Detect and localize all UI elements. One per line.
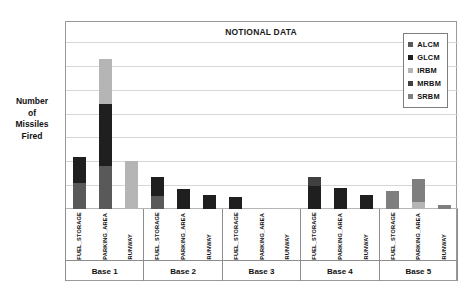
bar-slot[interactable] [99, 42, 112, 209]
bar-slot[interactable] [282, 42, 295, 209]
axis-group-cell: FUEL_STORAGEPARKING_AREARUNWAYBase 2 [143, 209, 222, 281]
y-axis-title-line-2: of [2, 108, 62, 120]
bar-segment[interactable] [99, 166, 112, 209]
bar-segment[interactable] [308, 186, 321, 209]
bar-stack[interactable] [203, 195, 216, 209]
chart-title: NOTIONAL DATA [66, 27, 456, 37]
bar-segment[interactable] [125, 161, 138, 209]
bar-segment[interactable] [412, 179, 425, 202]
bar-segment[interactable] [203, 195, 216, 209]
bar-stack[interactable] [99, 59, 112, 209]
axis-subcategory-row: FUEL_STORAGEPARKING_AREARUNWAY [301, 209, 378, 260]
bar-stack[interactable] [334, 188, 347, 209]
bar-segment[interactable] [73, 157, 86, 183]
bar-segment[interactable] [334, 188, 347, 209]
bar-group [144, 42, 222, 209]
bar-segment[interactable] [99, 59, 112, 104]
bar-slot[interactable] [229, 42, 242, 209]
bar-slot[interactable] [125, 42, 138, 209]
bar-stack[interactable] [73, 157, 86, 209]
axis-subcategory-label: FUEL_STORAGE [229, 210, 242, 260]
axis-group-cell: FUEL_STORAGEPARKING_AREARUNWAYBase 3 [222, 209, 301, 281]
legend-item[interactable]: MRBM [408, 77, 441, 90]
axis-subcategory-label: PARKING_AREA [255, 210, 268, 260]
bar-slot[interactable] [360, 42, 373, 209]
bar-group [301, 42, 379, 209]
bar-segment[interactable] [99, 104, 112, 166]
bar-slot[interactable] [177, 42, 190, 209]
bar-segment[interactable] [177, 189, 190, 209]
y-axis-title-line-3: Missiles [2, 119, 62, 131]
axis-group-label: Base 4 [301, 260, 378, 281]
axis-subcategory-label: PARKING_AREA [412, 210, 425, 260]
axis-group-label: Base 1 [66, 260, 143, 281]
axis-group-label: Base 2 [144, 260, 221, 281]
axis-group-cell: FUEL_STORAGEPARKING_AREARUNWAYBase 1 [65, 209, 144, 281]
chart-legend: ALCMGLCMIRBMMRBMSRBM [403, 33, 448, 108]
bar-segment[interactable] [151, 177, 164, 196]
axis-subcategory-row: FUEL_STORAGEPARKING_AREARUNWAY [380, 209, 457, 260]
bar-segment[interactable] [412, 202, 425, 209]
chart-container: NOTIONAL DATA FUEL_STORAGEPARKING_AREARU… [65, 21, 457, 281]
bar-segment[interactable] [229, 197, 242, 209]
bar-stack[interactable] [386, 191, 399, 209]
legend-swatch-icon [408, 81, 413, 86]
y-axis-title: Number of Missiles Fired [2, 96, 62, 142]
bar-slot[interactable] [308, 42, 321, 209]
axis-group-label: Base 5 [380, 260, 457, 281]
legend-item[interactable]: IRBM [408, 64, 441, 77]
legend-item[interactable]: SRBM [408, 90, 441, 103]
legend-label: IRBM [417, 66, 437, 75]
legend-swatch-icon [408, 94, 413, 99]
legend-swatch-icon [408, 68, 413, 73]
axis-group-label: Base 3 [223, 260, 300, 281]
bar-slot[interactable] [256, 42, 269, 209]
axis-subcategory-label: FUEL_STORAGE [72, 210, 85, 260]
legend-label: ALCM [417, 40, 439, 49]
axis-subcategory-label: PARKING_AREA [333, 210, 346, 260]
bar-stack[interactable] [229, 197, 242, 209]
bar-segment[interactable] [308, 177, 321, 187]
axis-group-cell: FUEL_STORAGEPARKING_AREARUNWAYBase 4 [300, 209, 379, 281]
axis-subcategory-label: FUEL_STORAGE [151, 210, 164, 260]
y-axis-title-line-1: Number [2, 96, 62, 108]
axis-subcategory-label: PARKING_AREA [98, 210, 111, 260]
axis-subcategory-row: FUEL_STORAGEPARKING_AREARUNWAY [144, 209, 221, 260]
axis-subcategory-label: RUNWAY [202, 210, 215, 260]
axis-subcategory-label: FUEL_STORAGE [308, 210, 321, 260]
bar-stack[interactable] [125, 161, 138, 209]
axis-group-cell: FUEL_STORAGEPARKING_AREARUNWAYBase 5 [379, 209, 458, 281]
bar-slot[interactable] [151, 42, 164, 209]
bar-group [66, 42, 144, 209]
category-axis: FUEL_STORAGEPARKING_AREARUNWAYBase 1FUEL… [66, 209, 458, 281]
legend-item[interactable]: ALCM [408, 38, 441, 51]
legend-label: SRBM [417, 92, 440, 101]
bar-slot[interactable] [203, 42, 216, 209]
y-axis-title-line-4: Fired [2, 131, 62, 143]
axis-subcategory-label: RUNWAY [281, 210, 294, 260]
axis-subcategory-label: RUNWAY [124, 210, 137, 260]
legend-item[interactable]: GLCM [408, 51, 441, 64]
bar-stack[interactable] [308, 177, 321, 209]
bar-segment[interactable] [360, 195, 373, 209]
bars-layer [66, 42, 458, 209]
legend-swatch-icon [408, 42, 413, 47]
bar-stack[interactable] [360, 195, 373, 209]
axis-subcategory-label: FUEL_STORAGE [386, 210, 399, 260]
bar-segment[interactable] [151, 196, 164, 209]
bar-slot[interactable] [73, 42, 86, 209]
bar-stack[interactable] [177, 189, 190, 209]
bar-slot[interactable] [386, 42, 399, 209]
axis-subcategory-label: RUNWAY [438, 210, 451, 260]
legend-label: GLCM [417, 53, 440, 62]
bar-segment[interactable] [386, 191, 399, 209]
legend-label: MRBM [417, 79, 441, 88]
bar-group [223, 42, 301, 209]
plot-area [66, 42, 458, 209]
bar-stack[interactable] [151, 177, 164, 209]
axis-subcategory-row: FUEL_STORAGEPARKING_AREARUNWAY [223, 209, 300, 260]
bar-segment[interactable] [73, 183, 86, 209]
axis-subcategory-label: RUNWAY [359, 210, 372, 260]
bar-stack[interactable] [412, 179, 425, 209]
bar-slot[interactable] [334, 42, 347, 209]
